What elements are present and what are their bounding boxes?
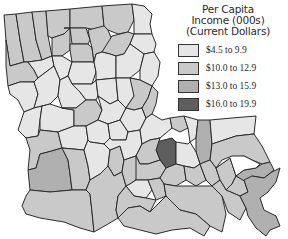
legend-label: $4.5 to 9.9 xyxy=(206,45,247,55)
legend-item: $13.0 to 15.9 xyxy=(178,77,288,95)
legend-label: $16.0 to 19.9 xyxy=(206,99,256,109)
parish-region xyxy=(8,82,38,112)
parish-region xyxy=(196,120,212,164)
parish-region xyxy=(132,4,152,34)
legend-title: Per Capita Income (000s) (Current Dollar… xyxy=(168,4,288,37)
legend-title-line: (Current Dollars) xyxy=(168,26,288,37)
legend-swatch xyxy=(178,44,199,57)
map-legend: Per Capita Income (000s) (Current Dollar… xyxy=(168,4,288,113)
parish-region xyxy=(70,44,94,62)
legend-label: $10.0 to 12.9 xyxy=(206,63,256,73)
parish-region xyxy=(22,190,94,232)
legend-swatch xyxy=(178,98,199,111)
legend-items: $4.5 to 9.9 $10.0 to 12.9 $13.0 to 15.9 … xyxy=(178,41,288,113)
legend-label: $13.0 to 15.9 xyxy=(206,81,256,91)
legend-swatch xyxy=(178,62,199,75)
parish-region xyxy=(94,52,116,80)
legend-item: $10.0 to 12.9 xyxy=(178,59,288,77)
legend-item: $4.5 to 9.9 xyxy=(178,41,288,59)
parish-region xyxy=(140,52,160,86)
legend-swatch xyxy=(178,80,199,93)
legend-item: $16.0 to 19.9 xyxy=(178,95,288,113)
parish-region xyxy=(68,62,96,84)
parish-region xyxy=(70,6,104,30)
parish-region xyxy=(18,106,42,138)
